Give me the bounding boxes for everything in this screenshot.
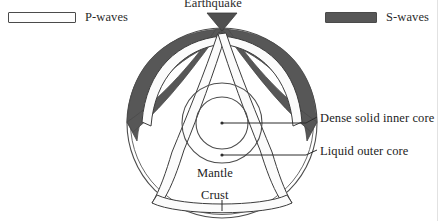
- seismic-wave-diagram: P-waves S-waves: [0, 0, 446, 221]
- earthquake-label: Earthquake: [184, 0, 242, 11]
- mantle-label: Mantle: [197, 166, 233, 181]
- crust-label: Crust: [201, 188, 229, 203]
- outer-core-label: Liquid outer core: [320, 144, 408, 159]
- inner-core-label: Dense solid inner core: [320, 111, 434, 126]
